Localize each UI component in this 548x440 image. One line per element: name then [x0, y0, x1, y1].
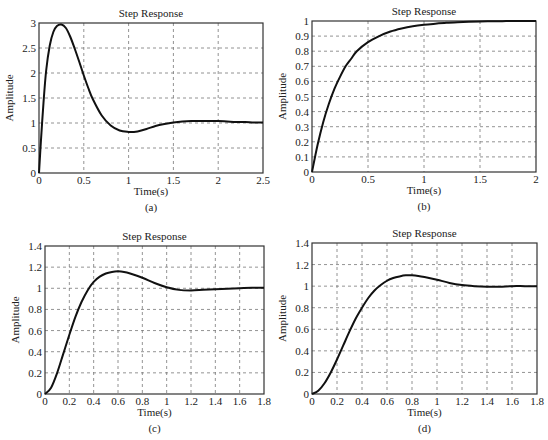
chart-d: 00.20.40.60.811.21.41.61.800.20.40.60.81… [276, 227, 544, 435]
y-tick-label: 1 [304, 15, 310, 27]
chart-c: 00.20.40.60.811.21.41.61.800.20.40.60.81… [9, 230, 271, 435]
x-tick-label: 1.8 [257, 395, 271, 407]
x-tick-label: 0 [36, 174, 42, 186]
y-tick-label: 3 [31, 17, 37, 29]
y-tick-label: 2.5 [22, 42, 36, 54]
y-tick-label: 1 [37, 282, 43, 294]
grid [312, 21, 536, 172]
response-curve [312, 275, 537, 394]
y-tick-label: 1.2 [28, 261, 42, 273]
x-tick-label: 0.2 [330, 395, 344, 407]
plot-frame [312, 243, 537, 394]
chart-a: 00.511.522.500.511.522.53Step ResponseTi… [3, 7, 270, 214]
y-tick-label: 0.8 [295, 45, 309, 57]
x-tick-label: 1.4 [208, 395, 222, 407]
x-axis-label: Time(s) [134, 185, 169, 198]
x-axis-label: Time(s) [407, 406, 442, 419]
grid [312, 243, 537, 394]
x-tick-label: 0 [42, 395, 48, 407]
chart-caption: (a) [145, 201, 158, 214]
x-tick-label: 1.5 [473, 173, 487, 185]
chart-caption: (b) [418, 200, 431, 213]
y-tick-label: 0.9 [295, 30, 309, 42]
x-tick-label: 1.5 [167, 174, 181, 186]
y-axis-label: Amplitude [276, 295, 288, 342]
x-tick-label: 0.2 [62, 395, 76, 407]
y-tick-label: 0.6 [28, 325, 42, 337]
y-tick-label: 0.2 [28, 367, 42, 379]
x-tick-label: 1.6 [233, 395, 247, 407]
y-tick-label: 0.5 [22, 142, 36, 154]
y-axis-label: Amplitude [3, 74, 15, 121]
x-tick-label: 0.5 [77, 174, 91, 186]
y-tick-label: 0.8 [28, 303, 42, 315]
x-tick-label: 0.6 [380, 395, 394, 407]
x-tick-label: 1.2 [184, 395, 198, 407]
x-tick-label: 0.5 [361, 173, 375, 185]
y-tick-label: 1.2 [295, 259, 309, 271]
x-axis-label: Time(s) [137, 406, 172, 419]
chart-caption: (c) [148, 422, 161, 435]
x-tick-label: 2 [215, 174, 221, 186]
y-tick-label: 0 [37, 388, 43, 400]
x-tick-label: 1.8 [530, 395, 544, 407]
y-tick-label: 0 [304, 388, 310, 400]
response-curve [45, 271, 264, 394]
grid [45, 246, 264, 394]
chart-title: Step Response [392, 227, 457, 239]
y-tick-label: 0.1 [295, 151, 309, 163]
y-tick-label: 0.5 [295, 91, 309, 103]
response-curve [39, 24, 263, 173]
y-tick-label: 1.4 [28, 240, 42, 252]
y-tick-label: 0.2 [295, 136, 309, 148]
y-tick-label: 1 [304, 280, 310, 292]
y-axis-label: Amplitude [276, 73, 288, 120]
figure-canvas: 00.511.522.500.511.522.53Step ResponseTi… [0, 0, 548, 440]
y-tick-label: 0.7 [295, 60, 309, 72]
x-tick-label: 2.5 [256, 174, 270, 186]
y-tick-label: 0.6 [295, 75, 309, 87]
y-tick-label: 0.8 [295, 302, 309, 314]
y-tick-label: 0.6 [295, 323, 309, 335]
y-tick-label: 0 [31, 167, 37, 179]
x-tick-label: 0 [309, 395, 315, 407]
x-tick-label: 2 [533, 173, 539, 185]
x-tick-label: 0.4 [355, 395, 369, 407]
chart-title: Step Response [122, 230, 187, 242]
y-tick-label: 0.3 [295, 121, 309, 133]
x-tick-label: 1.6 [505, 395, 519, 407]
x-tick-label: 1.2 [455, 395, 469, 407]
y-tick-label: 0.4 [28, 346, 42, 358]
chart-b: 00.511.5200.10.20.30.40.50.60.70.80.91St… [276, 5, 539, 213]
y-tick-label: 1.4 [295, 237, 309, 249]
y-tick-label: 0.2 [295, 366, 309, 378]
y-tick-label: 1.5 [22, 92, 36, 104]
chart-title: Step Response [119, 7, 184, 19]
y-tick-label: 0.4 [295, 345, 309, 357]
x-tick-label: 0.4 [87, 395, 101, 407]
y-axis-label: Amplitude [9, 296, 21, 343]
y-tick-label: 0.4 [295, 106, 309, 118]
x-tick-label: 1.4 [480, 395, 494, 407]
plot-frame [45, 246, 264, 394]
x-tick-label: 1 [126, 174, 132, 186]
y-tick-label: 1 [31, 117, 37, 129]
chart-title: Step Response [392, 5, 457, 17]
y-tick-label: 2 [31, 67, 37, 79]
x-tick-label: 0 [309, 173, 315, 185]
x-tick-label: 0.6 [111, 395, 125, 407]
x-axis-label: Time(s) [407, 184, 442, 197]
chart-caption: (d) [418, 422, 431, 435]
y-tick-label: 0 [304, 166, 310, 178]
